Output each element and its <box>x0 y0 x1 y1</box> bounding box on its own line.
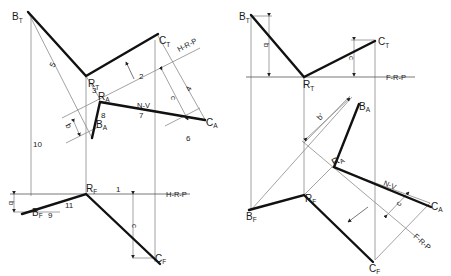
label-ct: CT <box>159 35 170 48</box>
label-ra: RA <box>98 91 110 103</box>
label-ba: BA <box>359 101 371 113</box>
label-nv: N-V <box>137 101 150 110</box>
label-hrp-bottom: H-R-P <box>166 190 187 199</box>
dim-c: c <box>130 224 139 228</box>
dim-b-prime: b' <box>315 111 326 122</box>
label-rf: RF <box>305 193 316 205</box>
label-ca: CA <box>206 117 218 129</box>
step-4: 4 <box>184 84 194 93</box>
label-cf: CF <box>155 253 166 265</box>
object-front-view <box>22 194 160 264</box>
label-ct: CT <box>378 36 389 49</box>
step-2: 2 <box>139 72 144 81</box>
step-6: 6 <box>186 134 191 143</box>
dim-b: b <box>262 43 271 48</box>
label-bt: BT <box>12 11 23 24</box>
dim-b-aux: b <box>64 122 74 131</box>
step-11: 11 <box>65 201 74 210</box>
step-8: 8 <box>101 111 106 120</box>
object-front-view <box>249 195 373 262</box>
step-7: 7 <box>139 111 144 120</box>
label-frp-bottom: F-R-P <box>412 232 433 252</box>
frp-line-bottom <box>302 141 415 236</box>
label-hrp-top: H-R-P <box>176 36 199 53</box>
right-view: BT RT CT BA RA CA RF BF CF F-R-P F-R-P N… <box>239 11 443 275</box>
label-ca: CA <box>431 201 443 213</box>
step-1: 1 <box>116 185 121 194</box>
dim-b: b <box>7 201 16 206</box>
label-cf: CF <box>369 263 380 275</box>
label-ba: BA <box>96 119 108 131</box>
step-3: 3 <box>92 86 97 95</box>
dim-c: c <box>347 56 356 60</box>
step-9: 9 <box>48 211 53 220</box>
left-view: BT RT CT RA BA CA RF BF CF H-R-P H-R-P N… <box>7 11 218 265</box>
dim-c-aux: c <box>169 96 178 100</box>
label-bt: BT <box>239 11 250 24</box>
object-aux-view <box>334 104 431 207</box>
label-bf: BF <box>246 211 257 223</box>
label-rt: RT <box>303 79 314 92</box>
object-top-view <box>28 12 158 76</box>
label-frp-top: F-R-P <box>386 73 406 82</box>
step-10: 10 <box>33 140 42 149</box>
label-rf: RF <box>86 183 97 195</box>
drawing-canvas: BT RT CT RA BA CA RF BF CF H-R-P H-R-P N… <box>0 0 451 276</box>
label-nv: N-V <box>382 179 397 192</box>
